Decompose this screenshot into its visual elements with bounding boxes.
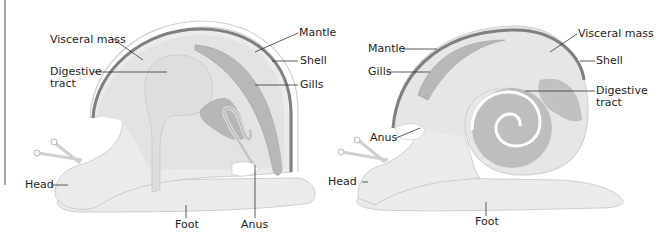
label-digestive-line2: tract	[50, 78, 102, 90]
label-visceral-mass-right: Visceral mass	[578, 28, 654, 40]
left-tentacle-2	[38, 153, 82, 160]
label-shell-right: Shell	[596, 55, 623, 67]
label-anus-left: Anus	[241, 219, 268, 231]
label-gills-right: Gills	[368, 66, 391, 78]
label-digestive-tract-left: Digestive tract	[50, 66, 102, 90]
snail-torsion-diagram: Visceral mass Digestive tract Mantle She…	[0, 0, 665, 244]
left-eye-1	[51, 139, 57, 145]
label-digestive-tract-right: Digestive tract	[596, 85, 648, 109]
label-anus-right: Anus	[370, 132, 397, 144]
label-digestive-line2: tract	[596, 97, 648, 109]
label-foot-left: Foot	[175, 219, 199, 231]
right-eye-2	[338, 149, 344, 155]
left-snail	[34, 21, 315, 218]
label-visceral-mass-left: Visceral mass	[50, 34, 126, 46]
left-mantle-cavity	[232, 162, 258, 176]
label-foot-right: Foot	[475, 216, 499, 228]
label-head-right: Head	[328, 176, 357, 188]
label-mantle-right: Mantle	[368, 43, 405, 55]
label-gills-left: Gills	[300, 79, 323, 91]
left-eye-2	[34, 150, 40, 156]
label-head-left: Head	[25, 179, 54, 191]
right-tentacle-2	[342, 152, 388, 160]
label-mantle-left: Mantle	[299, 27, 336, 39]
label-shell-left: Shell	[300, 55, 327, 67]
right-eye-1	[354, 137, 360, 143]
